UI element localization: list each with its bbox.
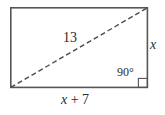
base-label-expression: + 7: [67, 92, 89, 107]
right-angle-degree-label: 90°: [117, 66, 134, 78]
hypotenuse-length-label: 13: [63, 31, 77, 45]
base-length-label: x + 7: [61, 93, 89, 107]
geometry-figure: 13 x 90° x + 7: [0, 0, 165, 115]
vertical-side-label: x: [150, 38, 156, 52]
right-angle-marker-icon: [138, 78, 147, 87]
